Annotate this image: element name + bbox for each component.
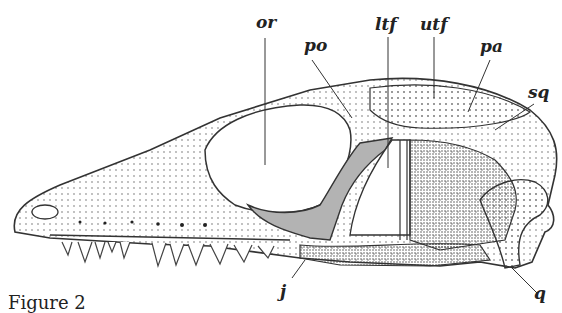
label-jugal: j xyxy=(280,283,286,300)
label-lower-temporal-fenestra: ltf xyxy=(375,16,397,33)
label-orbit: or xyxy=(256,14,276,31)
label-quadrate: q xyxy=(534,285,546,302)
label-squamosal: sq xyxy=(528,84,549,101)
lower-jaw xyxy=(300,244,490,266)
label-parietal: pa xyxy=(480,38,503,55)
upper-temporal-region xyxy=(370,85,530,128)
figure-caption: Figure 2 xyxy=(8,292,86,313)
label-upper-temporal-fenestra: utf xyxy=(420,16,448,33)
nostril xyxy=(32,205,58,219)
teeth xyxy=(62,242,274,266)
label-postorbital: po xyxy=(304,37,327,54)
